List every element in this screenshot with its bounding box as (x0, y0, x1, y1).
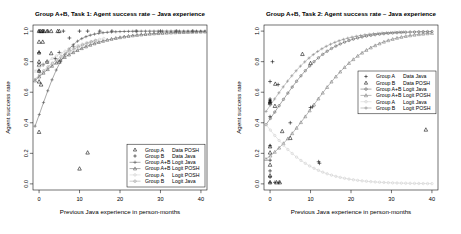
legend-series-label: Data POSH (403, 80, 430, 86)
x-tick-label: 10 (76, 196, 82, 202)
legend-series-label: Logit Java (172, 178, 196, 184)
panel-task1: Group A+B, Task 1: Agent success rate ~ … (0, 0, 231, 234)
chart-title: Group A+B, Task 1: Agent success rate ~ … (35, 10, 206, 17)
series-group-b-data-java (37, 29, 195, 73)
y-tick-label: 0.6 (254, 88, 260, 96)
chart-task2: Group A+B, Task 2: Agent success rate ~ … (231, 0, 461, 234)
legend-series-label: Logit Java (403, 99, 427, 105)
legend-series-label: Data POSH (172, 147, 199, 153)
legend-series-label: Logit POSH (403, 105, 431, 111)
x-axis-label: Previous Java experience in person-month… (60, 208, 180, 215)
x-tick-label: 10 (307, 196, 313, 202)
x-tick-label: 20 (117, 196, 123, 202)
x-axis-label: Previous Java experience in person-month… (290, 208, 410, 215)
series-group-a-data-posh (37, 29, 89, 170)
y-tick-label: 0.0 (23, 180, 29, 188)
legend[interactable]: Group AData JavaGroup BData POSHGroup A+… (358, 71, 436, 114)
legend-group-label: Group A+B (145, 159, 171, 165)
legend-series-label: Logit POSH (172, 165, 200, 171)
y-tick-label: 0.2 (254, 149, 260, 157)
y-axis-label: Agent success rate (4, 81, 11, 134)
legend-series-label: Data Java (172, 153, 195, 159)
y-tick-label: 0.0 (254, 180, 260, 188)
legend-group-label: Group A+B (145, 165, 171, 171)
panel-task2: Group A+B, Task 2: Agent success rate ~ … (231, 0, 461, 234)
legend-group-label: Group B (145, 178, 165, 184)
legend-series-label: Logit POSH (172, 172, 200, 178)
x-tick-label: 0 (38, 196, 41, 202)
legend-group-label: Group B (376, 105, 396, 111)
series-group-a-b-logit-java (33, 30, 206, 128)
y-tick-label: 1.0 (254, 27, 260, 35)
legend-group-label: Group A (145, 172, 165, 178)
legend-group-label: Group B (376, 80, 396, 86)
figure-two-panel-plot: Group A+B, Task 1: Agent success rate ~ … (0, 0, 461, 234)
series-group-a-logit-java (264, 123, 432, 184)
y-tick-label: 0.8 (254, 58, 260, 66)
y-tick-label: 0.4 (254, 119, 260, 127)
legend[interactable]: Group AData POSHGroup BData JavaGroup A+… (127, 144, 205, 187)
y-tick-label: 0.8 (23, 58, 29, 66)
series-group-a-data-java (268, 60, 321, 184)
series-group-b-logit-java (34, 39, 97, 80)
legend-group-label: Group A (145, 147, 165, 153)
x-tick-label: 20 (347, 196, 353, 202)
legend-group-label: Group A+B (376, 92, 402, 98)
legend-series-label: Logit POSH (403, 92, 431, 98)
legend-series-label: Data Java (403, 73, 426, 79)
legend-group-label: Group A+B (376, 86, 402, 92)
x-tick-label: 30 (388, 196, 394, 202)
y-axis-label: Agent success rate (235, 81, 242, 134)
x-tick-label: 0 (268, 196, 271, 202)
legend-series-label: Logit Java (172, 159, 196, 165)
legend-series-label: Logit Java (403, 86, 427, 92)
x-tick-label: 40 (198, 196, 204, 202)
x-tick-label: 40 (428, 196, 434, 202)
y-tick-label: 0.2 (23, 149, 29, 157)
chart-task1: Group A+B, Task 1: Agent success rate ~ … (0, 0, 231, 234)
legend-group-label: Group B (145, 153, 165, 159)
x-tick-label: 30 (157, 196, 163, 202)
series-group-a-b-logit-posh (34, 30, 207, 82)
legend-group-label: Group A (376, 99, 396, 105)
y-tick-label: 1.0 (23, 27, 29, 35)
chart-title: Group A+B, Task 2: Agent success rate ~ … (265, 10, 436, 17)
legend-group-label: Group A (376, 73, 396, 79)
y-tick-label: 0.4 (23, 119, 29, 127)
y-tick-label: 0.6 (23, 88, 29, 96)
